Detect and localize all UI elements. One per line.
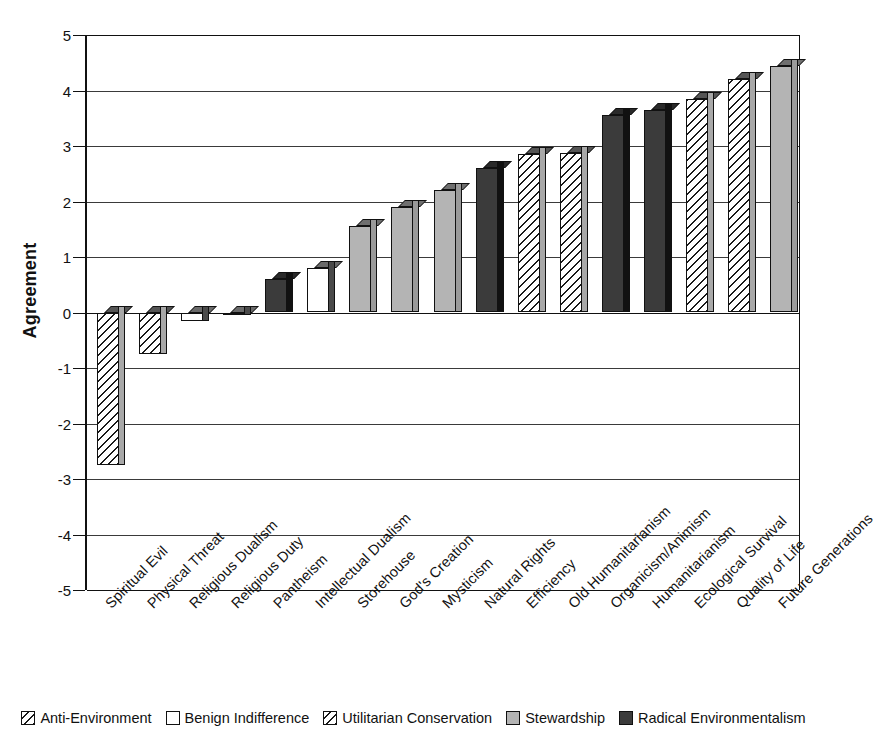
- legend-item-stewardship[interactable]: Stewardship: [506, 710, 605, 726]
- legend-label: Anti-Environment: [40, 710, 151, 726]
- legend-label: Utilitarian Conservation: [342, 710, 492, 726]
- legend-swatch-icon: [619, 711, 633, 725]
- legend-label: Radical Environmentalism: [638, 710, 806, 726]
- legend-label: Stewardship: [525, 710, 605, 726]
- x-axis-label: Natural Rights: [481, 534, 558, 611]
- legend-swatch-icon: [21, 711, 35, 725]
- legend-swatch-icon: [506, 711, 520, 725]
- legend-item-anti-environment[interactable]: Anti-Environment: [21, 710, 151, 726]
- legend-item-utilitarian-conservation[interactable]: Utilitarian Conservation: [323, 710, 492, 726]
- legend-item-benign-indifference[interactable]: Benign Indifference: [166, 710, 310, 726]
- legend: Anti-EnvironmentBenign IndifferenceUtili…: [0, 710, 827, 726]
- legend-swatch-icon: [323, 711, 337, 725]
- legend-item-radical-environmentalism[interactable]: Radical Environmentalism: [619, 710, 806, 726]
- legend-swatch-icon: [166, 711, 180, 725]
- x-axis-label: God's Creation: [396, 531, 476, 611]
- legend-label: Benign Indifference: [185, 710, 310, 726]
